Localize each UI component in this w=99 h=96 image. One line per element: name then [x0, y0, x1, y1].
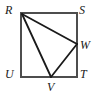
segment-rv: [22, 14, 51, 77]
triangle-rvw: [22, 14, 77, 77]
vertex-label-r: R: [5, 4, 12, 16]
segment-vw: [51, 44, 77, 77]
vertex-label-w: W: [80, 39, 90, 51]
vertex-label-u: U: [5, 68, 14, 80]
vertex-label-v: V: [47, 81, 54, 93]
geometry-figure: R S W U T V: [0, 0, 99, 96]
square-rstu: [21, 13, 77, 77]
vertex-label-t: T: [80, 68, 87, 80]
vertex-label-s: S: [79, 4, 85, 16]
segment-rw: [22, 14, 77, 44]
